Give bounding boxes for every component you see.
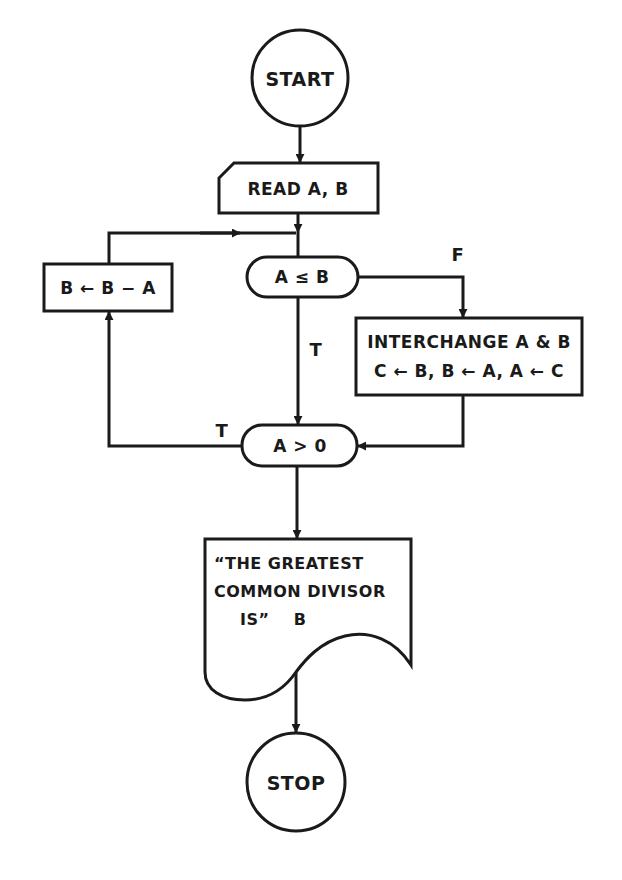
connector-cond1-false (358, 277, 463, 317)
start-node-label: START (265, 68, 334, 90)
subtract-node-label: B ← B − A (60, 278, 156, 298)
edge-label-cond2-true: T (216, 420, 229, 441)
interchange-node-line1: INTERCHANGE A & B (367, 332, 571, 352)
cond2-node-label: A > 0 (273, 436, 327, 456)
cond1-node-label: A ≤ B (275, 267, 330, 287)
edge-label-cond1-true: T (310, 339, 323, 360)
edge-label-cond1-false: F (452, 244, 465, 265)
output-node-line2: COMMON DIVISOR (214, 578, 386, 605)
output-node-line1: “THE GREATEST (214, 550, 364, 577)
read-node-label: READ A, B (247, 179, 348, 199)
connector-interchange-cond2 (358, 395, 463, 446)
flowchart-canvas: START READ A, B A ≤ B B ← B − A INTERCHA… (0, 0, 622, 880)
connector-subtract-loop (109, 233, 296, 264)
output-node-line3: IS” B (240, 606, 306, 633)
interchange-node-shape (356, 318, 582, 395)
stop-node-label: STOP (267, 772, 326, 794)
interchange-node-line2: C ← B, B ← A, A ← C (374, 361, 564, 381)
